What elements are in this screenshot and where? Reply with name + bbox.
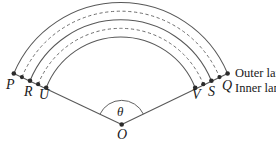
- inner-lane-label: Inner lane: [235, 82, 276, 95]
- dot-right-dashed-inner: [201, 82, 205, 86]
- outer-lane-label: Outer lane: [235, 67, 276, 80]
- point-label-Q: Q: [222, 79, 232, 93]
- dot-S: [209, 78, 214, 83]
- dot-R: [28, 78, 33, 83]
- point-label-V: V: [192, 88, 201, 102]
- dot-left-dashed-inner: [36, 82, 40, 86]
- geometry-figure: P R U V S Q Outer lane Inner lane θ O: [0, 0, 276, 143]
- arc-outer-dashed: [22, 11, 220, 77]
- point-label-R: R: [24, 85, 33, 99]
- dot-P: [12, 71, 17, 76]
- angle-label-theta: θ: [117, 105, 123, 118]
- center-label-O: O: [117, 128, 127, 142]
- point-label-U: U: [39, 88, 49, 102]
- arc-outer-solid: [14, 3, 228, 74]
- point-label-P: P: [6, 78, 15, 92]
- dot-Q: [225, 71, 230, 76]
- arc-inner-solid: [46, 37, 195, 88]
- arc-middle-solid: [30, 20, 211, 81]
- dot-left-dashed-outer: [20, 75, 24, 79]
- dot-right-dashed-outer: [217, 75, 221, 79]
- lane-arcs: [14, 3, 228, 88]
- point-label-S: S: [208, 85, 215, 99]
